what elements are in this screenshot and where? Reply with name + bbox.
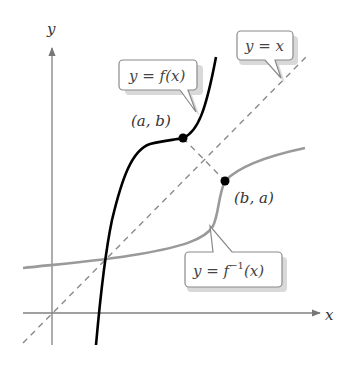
callout-identity-text: y = x [244,37,285,55]
callout-f-inverse-text: y = f−1(x) [192,260,264,280]
point-a-b [179,134,188,143]
inverse-function-curve [23,148,305,268]
callout-f-inverse-main: y = f [192,262,232,280]
point-b-a-label: (b, a) [234,189,274,207]
callout-f-inverse-sup: −1 [229,260,244,271]
point-a-b-label: (a, b) [131,112,171,130]
y-axis-label: y [46,20,56,38]
callout-f: y = f(x) [119,60,203,117]
callout-f-inverse-tail: (x) [244,262,264,280]
callout-f-inverse: y = f−1(x) [185,226,287,292]
x-axis-label: x [325,306,334,324]
function-curve [96,57,216,345]
point-b-a [221,177,230,186]
inverse-function-diagram: y x (a, b) (b, a) y = f(x) y = x y = f−1… [0,0,352,365]
callout-f-text: y = f(x) [128,67,185,85]
